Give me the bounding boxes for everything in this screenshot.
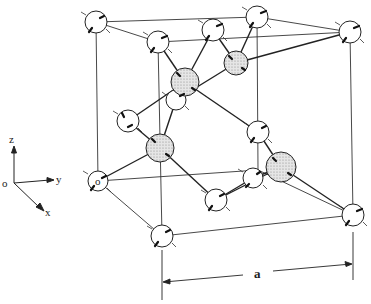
x-axis-label: x	[45, 206, 51, 218]
z-axis-label: z	[9, 133, 14, 145]
y-axis-label: y	[56, 173, 62, 185]
coordinate-axes	[12, 146, 55, 211]
crystal-lattice-diagram: o z y x o a	[0, 0, 371, 304]
origin-label: o	[2, 177, 8, 189]
origin-atom-label: o	[95, 175, 101, 187]
white-atoms	[85, 6, 364, 247]
shaded-atoms	[146, 51, 296, 182]
lattice-constant-label: a	[254, 266, 261, 281]
